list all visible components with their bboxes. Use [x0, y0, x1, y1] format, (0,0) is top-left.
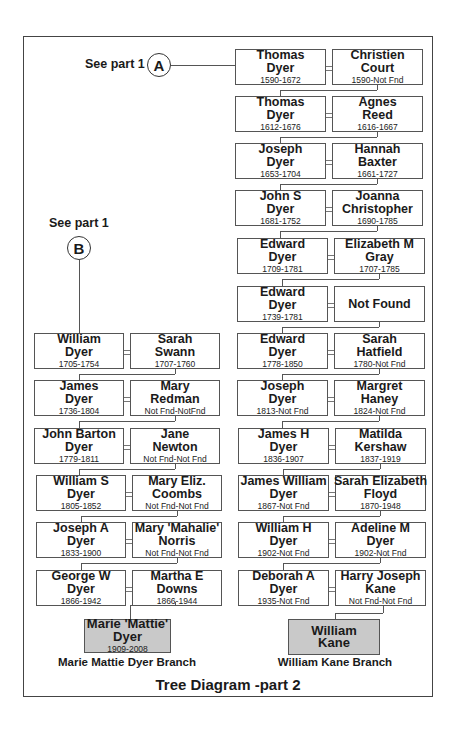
connector-line-b [79, 260, 80, 333]
person-box-wife: Elizabeth MGray1707-1785 [334, 238, 425, 274]
descent-line [283, 563, 380, 564]
person-dates: 1902-Not Fnd [258, 549, 310, 558]
marriage-connector [126, 539, 132, 544]
person-dates: 1709-1781 [262, 265, 303, 274]
person-name-line1: Elizabeth M [345, 238, 414, 251]
person-name-line1: William S [53, 475, 108, 488]
marriage-connector [326, 207, 332, 212]
marriage-connector [326, 113, 332, 118]
marriage-connector [124, 397, 130, 402]
marriage-connector [326, 66, 332, 71]
person-box-husband: EdwardDyer1709-1781 [237, 238, 328, 274]
person-name-line1: George W [51, 570, 110, 583]
person-name-line1: Sarah Elizabeth [334, 475, 427, 488]
descent-line [379, 274, 380, 279]
person-dates: 1705-1754 [59, 360, 100, 369]
person-name-line2: Dyer [270, 583, 298, 596]
person-name-line1: Edward [260, 333, 305, 346]
descent-line [79, 469, 175, 470]
person-box-wife: Harry JosephKaneNot Fnd-Not Fnd [335, 570, 426, 606]
connector-circle-b: B [67, 236, 91, 260]
person-dates: 1833-1900 [61, 549, 102, 558]
descent-line [81, 563, 177, 564]
descent-line [379, 369, 380, 374]
person-name-line2: Kane [318, 637, 350, 650]
descent-line [282, 374, 379, 375]
person-box-husband: Joseph ADyer1833-1900 [36, 522, 126, 558]
person-dates: 1590-1672 [260, 76, 301, 85]
descent-line [280, 184, 377, 185]
diagram-title: Tree Diagram -part 2 [23, 676, 433, 693]
person-name-line1: Sarah [362, 333, 397, 346]
person-box-husband: James HDyer1836-1907 [238, 428, 329, 464]
person-dates: 1935-Not Fnd [258, 597, 310, 606]
person-box-wife: Sarah ElizabethFloyd1870-1948 [335, 475, 426, 511]
branch-label-marie-mattie-dyer: Marie Mattie Dyer Branch [30, 656, 224, 668]
marriage-connector [126, 492, 132, 497]
descent-line [379, 416, 380, 421]
descent-line [282, 421, 379, 422]
person-name-line2: Kane [365, 583, 396, 596]
person-name-line2: Dyer [267, 62, 295, 75]
person-dates: 1909-2008 [107, 645, 148, 654]
person-name-line2: Dyer [269, 346, 297, 359]
person-name-line1: William H [255, 522, 311, 535]
person-box-husband: Deborah ADyer1935-Not Fnd [238, 570, 329, 606]
person-box-wife: SarahSwann1707-1760 [130, 333, 220, 369]
person-dates: 1736-1804 [59, 407, 100, 416]
descent-line [79, 421, 175, 422]
marriage-connector [328, 255, 334, 260]
descent-line [79, 374, 175, 375]
descent-line [81, 516, 177, 517]
descent-line [383, 605, 384, 613]
person-box-husband: JamesDyer1736-1804 [34, 380, 124, 416]
person-dates: 1805-1852 [61, 502, 102, 511]
person-name-line2: Swann [155, 346, 195, 359]
see-part-1-label-b: See part 1 [49, 216, 109, 230]
person-box-wife: Mary Eliz.CoombsNot Fnd-Not Fnd [132, 475, 222, 511]
person-dates: 1739-1781 [262, 313, 303, 322]
connector-line-a [171, 65, 235, 66]
person-box-husband: George WDyer1866-1942 [36, 570, 126, 606]
person-dates: 1824-Not Fnd [354, 407, 406, 416]
person-dates: 1866-1942 [61, 597, 102, 606]
person-dates: 1870-1948 [360, 502, 401, 511]
person-name-line1: Mary [160, 380, 189, 393]
marriage-connector [329, 445, 335, 450]
person-box-husband: EdwardDyer1778-1850 [237, 333, 328, 369]
person-dates: 1779-1811 [59, 455, 99, 464]
person-name-line1: John S [260, 190, 302, 203]
descent-line [282, 327, 379, 328]
person-dates: Not Fnd-Not Fnd [349, 597, 412, 606]
person-name-line2: Newton [152, 441, 197, 454]
descent-line [282, 279, 379, 280]
person-name-line2: Redman [150, 393, 199, 406]
marriage-connector [328, 303, 334, 308]
person-name-line1: Martha E [151, 570, 204, 583]
person-name-line2: Dyer [65, 441, 93, 454]
descent-line [175, 369, 176, 374]
descent-line [175, 416, 176, 421]
person-box-husband: William HDyer1902-Not Fnd [238, 522, 329, 558]
person-box-husband: John BartonDyer1779-1811 [34, 428, 124, 464]
descent-line [380, 464, 381, 469]
descent-line [377, 226, 378, 231]
person-name-line2: Dyer [67, 488, 95, 501]
marriage-connector [326, 160, 332, 165]
person-name-line2: Dyer [269, 251, 297, 264]
person-name-line2: Dyer [270, 488, 298, 501]
person-dates: Not Fnd-Not Fnd [143, 455, 206, 464]
person-dates: 1707-1760 [155, 360, 196, 369]
person-box-wife: Mary 'Mahalie'NorrisNot Fnd-Not Fnd [132, 522, 222, 558]
person-name-line1: Hannah [355, 143, 401, 156]
person-box-husband: WilliamDyer1705-1754 [34, 333, 124, 369]
person-name-line1: Joseph A [53, 522, 109, 535]
descent-line [177, 511, 178, 516]
person-dates: 1612-1676 [260, 123, 301, 132]
person-name-line2: Norris [159, 535, 196, 548]
person-name-line1: Joseph [259, 143, 303, 156]
descent-line [380, 511, 381, 516]
person-name-line2: Dyer [270, 535, 298, 548]
person-dates: 1616-1667 [357, 123, 398, 132]
person-box-wife: JaneNewtonNot Fnd-Not Fnd [130, 428, 220, 464]
